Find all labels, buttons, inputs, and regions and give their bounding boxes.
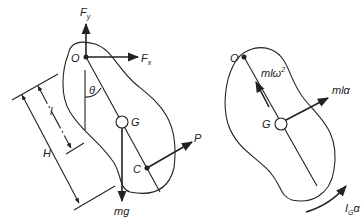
center-of-mass-g — [116, 116, 128, 128]
centripetal-force-arrow — [256, 82, 269, 107]
applied-force-p-arrow — [147, 142, 192, 168]
label-moment: IGα — [345, 202, 361, 216]
label-c: C — [133, 163, 141, 175]
kinetic-diagram: O mlω2 mlα G IGα — [225, 48, 360, 216]
diagram-canvas: O Fy Fx θ G C P mg l H O mlω2 mlα G IGα — [0, 0, 363, 224]
label-p: P — [194, 132, 202, 144]
label-tangential: mlα — [332, 84, 351, 96]
tangential-force-arrow — [286, 98, 328, 120]
label-force-fy: Fy — [80, 6, 91, 21]
label-force-fx: Fx — [141, 52, 152, 66]
pivot-o-dot-right — [242, 55, 247, 60]
label-dim-h: H — [43, 147, 51, 159]
dimension-h-bottom-extension — [74, 186, 115, 210]
free-body-diagram: O Fy Fx θ G C P mg l H — [12, 6, 202, 217]
label-centripetal: mlω2 — [261, 66, 285, 79]
label-g-right: G — [262, 118, 271, 130]
label-pivot-o-right: O — [230, 52, 239, 64]
dimension-top-extension — [12, 74, 58, 100]
label-g: G — [131, 116, 140, 128]
label-pivot-o: O — [71, 52, 80, 64]
dimension-l-line — [38, 86, 71, 148]
label-dim-l: l — [50, 105, 53, 117]
label-mg: mg — [114, 205, 130, 217]
label-theta: θ — [89, 84, 95, 96]
center-of-mass-g-right — [275, 118, 287, 130]
